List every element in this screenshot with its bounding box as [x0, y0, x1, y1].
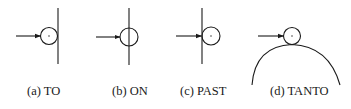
caption-b: (b) ON [112, 84, 148, 98]
panel-d-tanto [252, 28, 340, 86]
caption-a: (a) TO [27, 84, 60, 98]
curved-surface-arc [252, 45, 340, 86]
figure-canvas: (a) TO (b) ON (c) PAST (d) TANTO [0, 0, 351, 109]
circle-center-dot [48, 35, 49, 36]
panel-c-past [176, 8, 220, 64]
panel-b-on [96, 8, 138, 65]
caption-c: (c) PAST [180, 84, 226, 98]
panel-a-to [16, 8, 58, 64]
circle-center-dot [291, 35, 292, 36]
circle-center-dot [210, 35, 211, 36]
caption-d: (d) TANTO [270, 84, 329, 98]
